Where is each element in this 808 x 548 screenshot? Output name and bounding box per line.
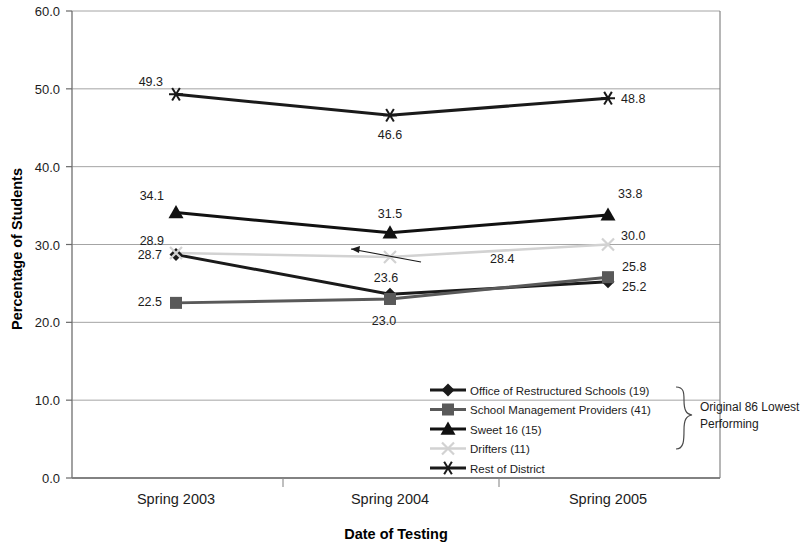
x-axis-title: Date of Testing [344, 526, 448, 542]
data-point-label: 23.6 [374, 271, 398, 285]
legend-item-label: Sweet 16 (15) [470, 424, 542, 436]
data-point-label: 28.7 [138, 248, 162, 262]
annotation-arrowhead [351, 246, 360, 253]
x-category-label: Spring 2004 [351, 491, 429, 507]
line-chart: 0.010.020.030.040.050.060.0 Spring 2003S… [0, 0, 808, 548]
data-point-label: 46.6 [378, 128, 402, 142]
data-point-label: 28.4 [490, 252, 514, 266]
data-point-label: 33.8 [618, 187, 642, 201]
data-point-marker [169, 88, 183, 101]
data-point-label: 25.8 [622, 260, 646, 274]
data-point-label: 23.0 [372, 314, 396, 328]
data-point-marker [441, 462, 455, 475]
y-tick-label: 60.0 [35, 4, 60, 19]
data-point-marker [384, 293, 396, 305]
chart-legend: Office of Restructured Schools (19)Schoo… [430, 384, 651, 475]
data-point-label: 22.5 [138, 295, 162, 309]
y-tick-label: 40.0 [35, 160, 60, 175]
data-point-label: 34.1 [140, 189, 164, 203]
y-tick-label: 50.0 [35, 82, 60, 97]
legend-item-label: Rest of District [470, 463, 546, 475]
data-point-marker [602, 271, 614, 283]
data-point-label: 49.3 [139, 75, 163, 89]
bracket-label-line2: Performing [700, 417, 759, 431]
x-category-label: Spring 2003 [137, 491, 215, 507]
data-point-marker [170, 248, 183, 261]
bracket-label-line1: Original 86 Lowest [700, 400, 800, 414]
data-point-marker [442, 404, 454, 416]
y-tick-label: 30.0 [35, 238, 60, 253]
legend-item-label: Drifters (11) [470, 443, 530, 455]
grouping-bracket [676, 387, 692, 449]
y-axis-ticks: 0.010.020.030.040.050.060.0 [35, 4, 72, 486]
y-tick-label: 0.0 [42, 471, 60, 486]
data-point-marker [383, 109, 397, 122]
x-axis-ticks: Spring 2003Spring 2004Spring 2005 [137, 478, 647, 507]
data-point-label: 25.2 [622, 280, 646, 294]
data-point-label: 30.0 [621, 229, 645, 243]
data-point-marker [442, 384, 455, 397]
y-tick-label: 10.0 [35, 393, 60, 408]
y-axis-title: Percentage of Students [9, 168, 25, 330]
legend-item-label: Office of Restructured Schools (19) [470, 385, 650, 397]
data-point-label: 28.9 [140, 234, 164, 248]
x-category-label: Spring 2005 [569, 491, 647, 507]
legend-item-label: School Management Providers (41) [470, 404, 651, 416]
data-point-marker [601, 92, 615, 105]
bracket-path [676, 387, 692, 449]
data-point-marker [170, 297, 182, 309]
y-tick-label: 20.0 [35, 315, 60, 330]
data-point-label: 31.5 [378, 207, 402, 221]
data-point-label: 48.8 [621, 92, 645, 106]
chart-container: 0.010.020.030.040.050.060.0 Spring 2003S… [0, 0, 808, 548]
